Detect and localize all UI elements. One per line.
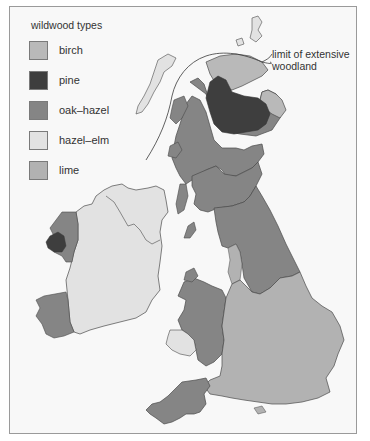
legend-item-birch: birch bbox=[29, 41, 139, 63]
legend-title: wildwood types bbox=[31, 19, 102, 31]
kintyre-peninsula bbox=[176, 184, 188, 214]
legend-label: hazel–elm bbox=[59, 134, 109, 146]
legend-item-hazel-elm: hazel–elm bbox=[29, 131, 139, 153]
woodland-limit-annotation: limit of extensive woodland bbox=[272, 48, 362, 72]
legend-item-oak-hazel: oak–hazel bbox=[29, 101, 139, 123]
annotation-leader-line bbox=[262, 54, 272, 62]
lime-swatch bbox=[29, 161, 48, 180]
legend-label: birch bbox=[59, 44, 83, 56]
orkney-shetland-islands bbox=[236, 16, 262, 46]
annotation-line-1: limit of extensive bbox=[272, 48, 362, 60]
pine-swatch bbox=[29, 71, 48, 90]
legend-label: lime bbox=[59, 164, 79, 176]
legend-item-lime: lime bbox=[29, 161, 139, 183]
isle-of-wight bbox=[254, 406, 266, 414]
legend-item-pine: pine bbox=[29, 71, 139, 93]
annotation-line-2: woodland bbox=[272, 60, 362, 72]
map-legend: wildwood types birch pine oak–hazel haze… bbox=[0, 0, 130, 200]
isle-of-man bbox=[184, 222, 196, 238]
hazel-elm-swatch bbox=[29, 131, 48, 150]
southwest-england-oak-hazel-region bbox=[146, 378, 210, 424]
england-lime-region bbox=[204, 272, 344, 404]
legend-label: oak–hazel bbox=[59, 104, 109, 116]
birch-swatch bbox=[29, 41, 48, 60]
legend-label: pine bbox=[59, 74, 80, 86]
oak-hazel-swatch bbox=[29, 101, 48, 120]
